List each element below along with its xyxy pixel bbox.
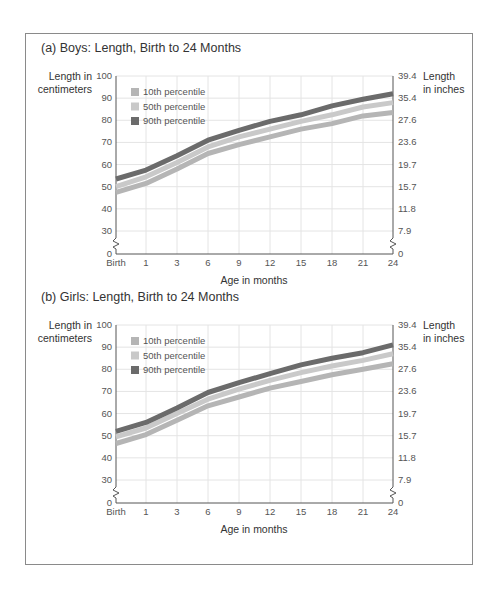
legend: 10th percentile50th percentile90th perce… [131, 86, 205, 126]
svg-text:in inches: in inches [423, 332, 464, 344]
svg-text:19.7: 19.7 [398, 159, 417, 170]
svg-text:15: 15 [296, 506, 307, 517]
svg-text:80: 80 [101, 114, 112, 125]
svg-text:7.9: 7.9 [398, 474, 411, 485]
svg-text:0: 0 [398, 497, 403, 508]
svg-text:1: 1 [143, 506, 148, 517]
svg-text:27.6: 27.6 [398, 363, 417, 374]
girls-chart-plot: 10090807060504030039.435.427.623.619.715… [0, 249, 494, 549]
svg-text:in inches: in inches [423, 83, 464, 95]
y-ticks-left: 100908070605040300 [96, 70, 112, 259]
svg-text:39.4: 39.4 [398, 70, 417, 81]
svg-text:30: 30 [101, 225, 112, 236]
svg-text:90: 90 [101, 341, 112, 352]
svg-text:24: 24 [388, 506, 399, 517]
svg-text:11.8: 11.8 [398, 203, 416, 214]
y-axis-label-left: Length in [49, 319, 92, 331]
svg-text:12: 12 [265, 506, 276, 517]
legend-label: 90th percentile [143, 115, 205, 126]
svg-text:70: 70 [101, 136, 112, 147]
legend-label: 10th percentile [143, 86, 205, 97]
svg-text:23.6: 23.6 [398, 136, 417, 147]
svg-text:18: 18 [327, 506, 338, 517]
girls-chart: 10090807060504030039.435.427.623.619.715… [0, 249, 494, 499]
svg-text:100: 100 [96, 70, 112, 81]
svg-text:90: 90 [101, 92, 112, 103]
svg-text:35.4: 35.4 [398, 92, 417, 103]
svg-text:19.7: 19.7 [398, 408, 417, 419]
svg-text:30: 30 [101, 474, 112, 485]
svg-text:11.8: 11.8 [398, 452, 416, 463]
y-axis-label-right: Length [423, 319, 455, 331]
legend: 10th percentile50th percentile90th perce… [131, 335, 205, 375]
y-ticks-left: 100908070605040300 [96, 319, 112, 508]
legend-swatch [131, 88, 139, 96]
svg-text:3: 3 [174, 506, 179, 517]
y-axis-label-right: Length [423, 70, 455, 82]
svg-text:35.4: 35.4 [398, 341, 417, 352]
svg-text:40: 40 [101, 203, 112, 214]
svg-text:centimeters: centimeters [38, 332, 92, 344]
svg-text:60: 60 [101, 159, 112, 170]
legend-label: 90th percentile [143, 364, 205, 375]
svg-text:Birth: Birth [106, 506, 126, 517]
svg-text:39.4: 39.4 [398, 319, 417, 330]
svg-text:centimeters: centimeters [38, 83, 92, 95]
svg-text:40: 40 [101, 452, 112, 463]
svg-text:50: 50 [101, 430, 112, 441]
svg-text:15.7: 15.7 [398, 181, 417, 192]
svg-text:50: 50 [101, 181, 112, 192]
legend-label: 10th percentile [143, 335, 205, 346]
svg-text:21: 21 [358, 506, 369, 517]
legend-label: 50th percentile [143, 350, 205, 361]
legend-swatch [131, 337, 139, 345]
svg-text:15.7: 15.7 [398, 430, 417, 441]
y-axis-label-left: Length in [49, 70, 92, 82]
legend-swatch [131, 117, 139, 125]
legend-swatch [131, 366, 139, 374]
legend-label: 50th percentile [143, 101, 205, 112]
svg-text:60: 60 [101, 408, 112, 419]
svg-text:6: 6 [205, 506, 210, 517]
x-axis-label: Age in months [220, 523, 287, 535]
svg-text:100: 100 [96, 319, 112, 330]
svg-text:27.6: 27.6 [398, 114, 417, 125]
svg-text:23.6: 23.6 [398, 385, 417, 396]
y-ticks-right: 39.435.427.623.619.715.711.87.90 [398, 319, 417, 508]
svg-text:70: 70 [101, 385, 112, 396]
svg-text:9: 9 [236, 506, 241, 517]
svg-text:7.9: 7.9 [398, 225, 411, 236]
boys-chart: 10090807060504030039.435.427.623.619.715… [0, 0, 494, 250]
legend-swatch [131, 352, 139, 360]
boys-chart-plot: 10090807060504030039.435.427.623.619.715… [0, 0, 494, 290]
x-ticks: Birth13691215182124 [106, 506, 398, 517]
legend-swatch [131, 103, 139, 111]
y-ticks-right: 39.435.427.623.619.715.711.87.90 [398, 70, 417, 259]
svg-text:80: 80 [101, 363, 112, 374]
